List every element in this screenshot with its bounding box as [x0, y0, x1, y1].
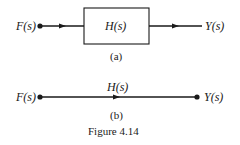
output-label-a: Y(s): [205, 20, 224, 32]
block-label: H(s): [105, 20, 126, 32]
arrowhead-icon: [59, 24, 66, 29]
output-node-b: [194, 94, 199, 99]
caption-b: (b): [110, 110, 123, 121]
arrowhead-icon: [172, 24, 179, 29]
branch-label: H(s): [107, 81, 128, 93]
input-label-a: F(s): [16, 20, 36, 32]
signal-flow-graph-b: [37, 94, 199, 99]
arrowhead-icon: [113, 95, 120, 100]
caption-a: (a): [110, 51, 122, 62]
input-label-b: F(s): [16, 91, 36, 103]
figure-caption: Figure 4.14: [88, 126, 139, 137]
output-label-b: Y(s): [204, 91, 223, 103]
